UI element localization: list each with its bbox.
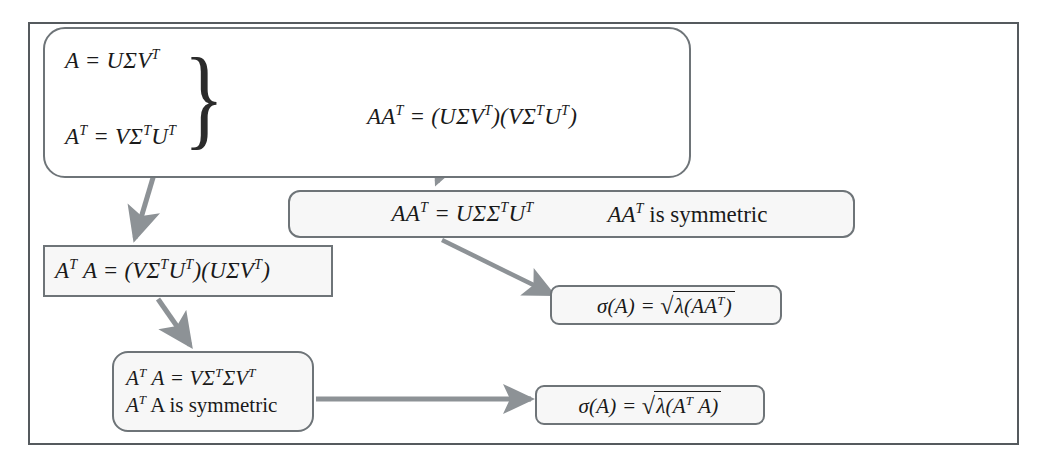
- node-aat-symmetric[interactable]: AAT = UΣΣTUT AAT is symmetric: [288, 190, 855, 238]
- equation-ata-expansion: AT A = (VΣTUT)(UΣVT): [45, 256, 331, 285]
- equation-aat-expansion: AAT = (UΣVT)(VΣTUT): [367, 102, 577, 131]
- note-aat-is-symmetric: AAT is symmetric: [533, 200, 767, 228]
- note-ata-is-symmetric: AT A is symmetric: [126, 392, 312, 418]
- node-primary-definitions[interactable]: A = UΣVT AT = VΣTUT } AAT = (UΣVT)(VΣTUT…: [43, 27, 691, 178]
- equation-sigma-aat: σ(A) = √λ(AAT): [597, 289, 735, 320]
- equation-a-svd: A = UΣVT: [65, 46, 160, 75]
- equation-a-transpose-svd: AT = VΣTUT: [65, 122, 176, 151]
- grouping-brace: }: [184, 41, 224, 153]
- node-ata-symmetric[interactable]: AT A = VΣTΣVT AT A is symmetric: [112, 351, 314, 432]
- radical-icon: √: [642, 391, 655, 421]
- diagram-canvas: A = UΣVT AT = VΣTUT } AAT = (UΣVT)(VΣTUT…: [0, 0, 1044, 471]
- equation-aat-sigma-form: AAT = UΣΣTUT: [376, 199, 534, 228]
- radical-icon: √: [660, 291, 673, 321]
- node-ata-expanded[interactable]: AT A = (VΣTUT)(UΣVT): [43, 245, 333, 297]
- equation-ata-sigma-form: AT A = VΣTΣVT: [126, 365, 312, 391]
- node-sigma-from-aat[interactable]: σ(A) = √λ(AAT): [550, 285, 782, 325]
- node-sigma-from-ata[interactable]: σ(A) = √λ(AT A): [535, 385, 765, 425]
- equation-sigma-ata: σ(A) = √λ(AT A): [579, 389, 722, 420]
